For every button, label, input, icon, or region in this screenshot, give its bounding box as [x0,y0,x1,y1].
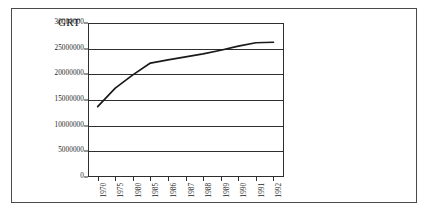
x-axis-tick-label: 1970 [101,183,108,197]
x-axis-tick-mark [98,177,99,181]
x-axis-tick-label: 1975 [118,183,125,197]
x-axis-tick-label: 1986 [171,183,178,197]
line-chart: GRT 050000001000000015000000200000002500… [12,9,418,204]
y-axis-tick-label: 0 [80,173,84,180]
x-axis-tick-mark [273,177,274,181]
y-axis-tick-label: 10000000 [54,122,84,129]
plot-area: 0500000010000000150000002000000025000000… [88,23,284,177]
y-axis-tick-label: 15000000 [54,96,84,103]
x-axis-tick-label: 1991 [259,183,266,197]
x-axis-tick-label: 1985 [153,183,160,197]
y-axis-tick-label: 25000000 [54,45,84,52]
x-axis-tick-mark [115,177,116,181]
x-axis-tick-mark [168,177,169,181]
x-axis-tick-label: 1992 [276,183,283,197]
x-axis-tick-label: 1980 [136,183,143,197]
y-axis-tick-label: 30000000 [54,19,84,26]
x-axis-tick-label: 1988 [206,183,213,197]
x-axis-tick-mark [238,177,239,181]
figure-frame: GRT 050000001000000015000000200000002500… [11,8,417,203]
x-axis-tick-mark [203,177,204,181]
x-axis-tick-mark [133,177,134,181]
x-axis-tick-label: 1987 [189,183,196,197]
x-axis-tick-mark [256,177,257,181]
x-axis-tick-label: 1990 [241,183,248,197]
y-axis-tick-label: 5000000 [58,148,84,155]
x-axis-tick-mark [221,177,222,181]
x-axis-tick-mark [150,177,151,181]
x-axis-tick-label: 1989 [224,183,231,197]
x-axis-tick-mark [186,177,187,181]
y-axis-tick-label: 20000000 [54,71,84,78]
series-line [88,23,284,177]
